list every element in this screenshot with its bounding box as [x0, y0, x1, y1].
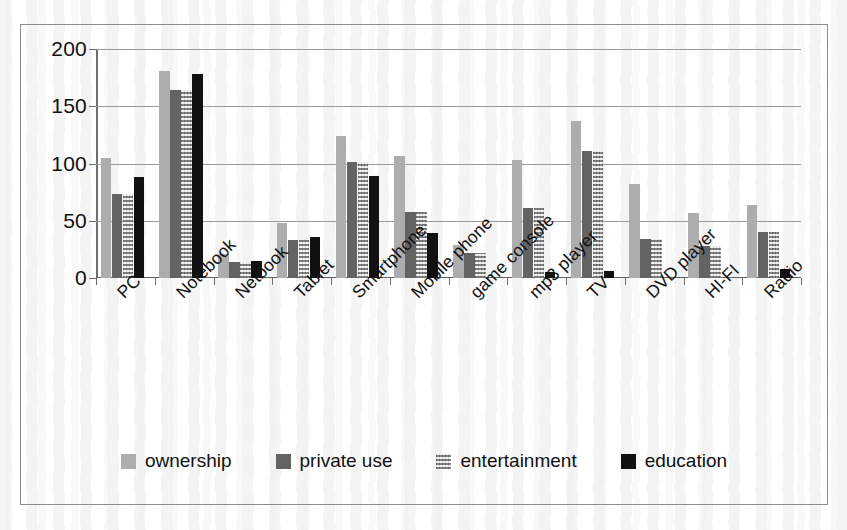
- bar-private: [758, 232, 769, 278]
- legend-swatch-private: [276, 454, 291, 469]
- figure-frame: 050100150200 PCNotebookNetbookTabletSmar…: [20, 24, 828, 505]
- x-axis-tick-mark: [801, 278, 802, 285]
- y-axis-tick-mark: [89, 106, 96, 107]
- bar-entertainment: [123, 194, 134, 278]
- bar-ownership: [629, 184, 640, 278]
- bar-private: [170, 90, 181, 278]
- y-axis-tick-mark: [89, 221, 96, 222]
- bar-group: [331, 49, 390, 278]
- bar-chart: 050100150200 PCNotebookNetbookTabletSmar…: [21, 25, 827, 504]
- bar-private: [640, 239, 651, 278]
- y-axis-tick-mark: [89, 164, 96, 165]
- y-axis-tick-label: 100: [51, 152, 87, 176]
- chart-legend: ownershipprivate useentertainmenteducati…: [21, 450, 827, 472]
- y-axis-tick-label: 150: [51, 94, 87, 118]
- bar-group: [155, 49, 214, 278]
- x-axis-tick-labels: PCNotebookNetbookTabletSmartphoneMobile …: [96, 278, 801, 408]
- y-axis-tick-label: 0: [75, 266, 87, 290]
- y-axis-tick-label: 200: [51, 37, 87, 61]
- legend-item-entertainment[interactable]: entertainment: [436, 450, 576, 472]
- legend-item-ownership[interactable]: ownership: [121, 450, 232, 472]
- bar-education: [134, 177, 145, 278]
- bar-group: [742, 49, 801, 278]
- y-axis-tick-label: 50: [63, 209, 87, 233]
- legend-item-private[interactable]: private use: [276, 450, 393, 472]
- bar-entertainment: [593, 151, 604, 278]
- legend-label: ownership: [145, 450, 232, 472]
- bar-ownership: [101, 158, 112, 278]
- legend-swatch-education: [621, 454, 636, 469]
- bar-entertainment: [181, 90, 192, 278]
- legend-label: entertainment: [460, 450, 576, 472]
- bar-private: [112, 194, 123, 278]
- bar-education: [192, 74, 203, 278]
- bar-group: [625, 49, 684, 278]
- bar-ownership: [159, 71, 170, 278]
- bar-entertainment: [358, 162, 369, 278]
- legend-swatch-ownership: [121, 454, 136, 469]
- legend-swatch-entertainment: [436, 454, 451, 469]
- y-axis-tick-mark: [89, 278, 96, 279]
- bar-ownership: [747, 205, 758, 278]
- legend-label: education: [645, 450, 727, 472]
- y-axis-tick-mark: [89, 49, 96, 50]
- bar-ownership: [336, 136, 347, 278]
- legend-item-education[interactable]: education: [621, 450, 727, 472]
- legend-label: private use: [300, 450, 393, 472]
- bar-private: [347, 162, 358, 278]
- bar-private: [229, 262, 240, 278]
- bar-group: [272, 49, 331, 278]
- y-axis-tick-labels: 050100150200: [21, 49, 87, 278]
- bar-group: [96, 49, 155, 278]
